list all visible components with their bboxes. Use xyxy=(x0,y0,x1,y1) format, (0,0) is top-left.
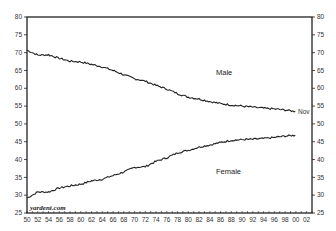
y-tick-label-left: 45 xyxy=(15,138,23,145)
y-tick-label-left: 30 xyxy=(15,191,23,198)
x-tick-label: 78 xyxy=(174,216,182,223)
watermark-yardeni: yardeni.com xyxy=(29,204,66,212)
male-label: Male xyxy=(216,68,232,77)
x-tick-label: 00 xyxy=(292,216,300,223)
female-series-line xyxy=(27,135,295,198)
female-label: Female xyxy=(216,167,241,176)
y-tick-label-left: 50 xyxy=(15,120,23,127)
x-tick-label: 62 xyxy=(88,216,96,223)
y-tick-label-right: 80 xyxy=(317,13,325,20)
x-tick-label: 66 xyxy=(109,216,117,223)
x-tick-label: 74 xyxy=(152,216,160,223)
y-tick-label-right: 30 xyxy=(317,191,325,198)
y-tick-label-right: 75 xyxy=(317,31,325,38)
nov-annotation: Nov xyxy=(298,108,310,115)
x-tick-label: 64 xyxy=(99,216,107,223)
y-tick-label-right: 45 xyxy=(317,138,325,145)
y-tick-label-left: 40 xyxy=(15,156,23,163)
x-tick-label: 70 xyxy=(131,216,139,223)
x-tick-label: 94 xyxy=(260,216,268,223)
y-tick-label-right: 70 xyxy=(317,49,325,56)
x-tick-label: 96 xyxy=(271,216,279,223)
x-tick-label: 54 xyxy=(45,216,53,223)
x-tick-label: 58 xyxy=(66,216,74,223)
y-tick-label-right: 25 xyxy=(317,209,325,216)
x-tick-label: 02 xyxy=(303,216,311,223)
x-tick-label: 92 xyxy=(249,216,257,223)
x-tick-label: 52 xyxy=(34,216,42,223)
x-tick-label: 82 xyxy=(195,216,203,223)
y-tick-label-left: 60 xyxy=(15,84,23,91)
y-tick-label-left: 25 xyxy=(15,209,23,216)
x-tick-label: 86 xyxy=(217,216,225,223)
x-tick-label: 80 xyxy=(185,216,193,223)
y-tick-label-left: 70 xyxy=(15,49,23,56)
x-tick-label: 50 xyxy=(23,216,31,223)
chart: 253035404550556065707580 253035404550556… xyxy=(0,0,336,231)
x-tick-label: 76 xyxy=(163,216,171,223)
y-tick-label-left: 35 xyxy=(15,174,23,181)
y-tick-label-right: 40 xyxy=(317,156,325,163)
y-tick-label-left: 75 xyxy=(15,31,23,38)
y-tick-label-right: 50 xyxy=(317,120,325,127)
y-tick-label-right: 60 xyxy=(317,84,325,91)
x-tick-label: 68 xyxy=(120,216,128,223)
x-tick-label: 90 xyxy=(238,216,246,223)
y-axis-right: 253035404550556065707580 xyxy=(312,13,325,216)
y-tick-label-left: 55 xyxy=(15,102,23,109)
y-tick-label-left: 65 xyxy=(15,67,23,74)
plot-frame xyxy=(27,17,312,213)
y-tick-label-left: 80 xyxy=(15,13,23,20)
x-tick-label: 56 xyxy=(56,216,64,223)
y-tick-label-right: 55 xyxy=(317,102,325,109)
y-tick-label-right: 35 xyxy=(317,174,325,181)
x-tick-label: 98 xyxy=(281,216,289,223)
x-tick-label: 72 xyxy=(142,216,150,223)
x-tick-label: 88 xyxy=(228,216,236,223)
x-tick-label: 84 xyxy=(206,216,214,223)
y-axis-left: 253035404550556065707580 xyxy=(15,13,27,216)
y-tick-label-right: 65 xyxy=(317,67,325,74)
x-tick-label: 60 xyxy=(77,216,85,223)
male-series-line xyxy=(27,50,295,112)
